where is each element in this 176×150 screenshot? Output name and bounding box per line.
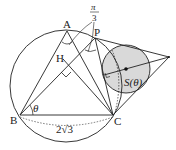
geometry-diagram: A P H B C θ π 3 2√3 S(θ) [0, 0, 176, 150]
segment-bp [20, 38, 95, 115]
segment-ab [20, 31, 67, 115]
label-pi: π [91, 2, 96, 12]
label-b: B [10, 114, 17, 126]
label-base-length: 2√3 [56, 123, 74, 135]
right-angle-mark-h [61, 72, 71, 77]
label-h: H [56, 52, 64, 64]
label-theta: θ [33, 102, 39, 114]
label-c: C [114, 115, 121, 127]
small-circle-center [124, 67, 128, 71]
vertex-dot [168, 56, 170, 58]
label-area-s: S(θ) [124, 76, 143, 89]
label-pi-den: 3 [92, 13, 97, 23]
label-a: A [63, 18, 71, 30]
angle-arc-p [85, 50, 96, 52]
label-p: P [94, 26, 100, 38]
